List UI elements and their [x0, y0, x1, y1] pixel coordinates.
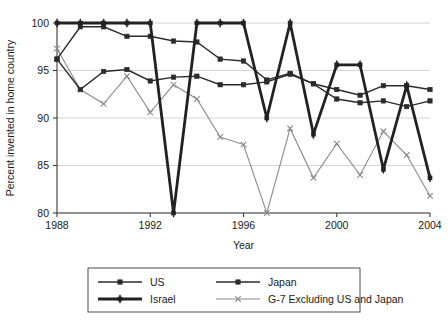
- data-point-marker: [125, 67, 129, 71]
- data-point-marker: [241, 59, 245, 63]
- y-tick-label: 85: [37, 159, 49, 171]
- legend-item-g-7-excluding-us-and-japan[interactable]: G-7 Excluding US and Japan: [216, 293, 404, 305]
- legend-label: Israel: [150, 293, 176, 305]
- data-point-marker: [236, 280, 240, 284]
- series-japan: [55, 57, 432, 109]
- chart-figure: 8085909510019881992199620002004YearPerce…: [0, 0, 448, 320]
- data-point-marker: [148, 79, 152, 83]
- data-point-marker: [381, 99, 385, 103]
- x-tick-label: 1992: [139, 219, 163, 231]
- data-point-marker: [55, 57, 59, 61]
- data-point-marker: [171, 75, 175, 79]
- y-tick-label: 80: [37, 207, 49, 219]
- legend-item-japan[interactable]: Japan: [216, 276, 297, 288]
- data-point-marker: [335, 87, 339, 91]
- y-tick-label: 100: [31, 17, 49, 29]
- x-tick-label: 2000: [325, 219, 349, 231]
- data-point-marker: [335, 97, 339, 101]
- data-point-marker: [358, 101, 362, 105]
- legend-border: [88, 268, 360, 312]
- x-tick-label: 2004: [418, 219, 442, 231]
- legend-label: Japan: [268, 276, 297, 288]
- line-chart: 8085909510019881992199620002004YearPerce…: [0, 0, 448, 320]
- y-axis-title: Percent invented in home country: [4, 39, 16, 196]
- data-point-marker: [428, 99, 432, 103]
- data-point-marker: [171, 39, 175, 43]
- data-point-marker: [428, 87, 432, 91]
- x-tick-label: 1988: [45, 219, 69, 231]
- data-point-marker: [404, 104, 408, 108]
- legend-item-us[interactable]: US: [98, 276, 165, 288]
- data-point-marker: [381, 84, 385, 88]
- legend-label: G-7 Excluding US and Japan: [268, 293, 404, 305]
- x-axis-title: Year: [233, 239, 255, 251]
- legend: USJapanIsraelG-7 Excluding US and Japan: [88, 268, 404, 312]
- data-point-marker: [218, 83, 222, 87]
- data-point-marker: [311, 82, 315, 86]
- data-point-marker: [125, 34, 129, 38]
- legend-item-israel[interactable]: Israel: [98, 293, 176, 305]
- data-point-marker: [241, 83, 245, 87]
- legend-label: US: [150, 276, 165, 288]
- data-point-marker: [218, 57, 222, 61]
- data-point-marker: [195, 74, 199, 78]
- data-point-marker: [265, 80, 269, 84]
- x-tick-label: 1996: [232, 219, 256, 231]
- y-tick-label: 95: [37, 64, 49, 76]
- data-point-marker: [358, 93, 362, 97]
- y-tick-label: 90: [37, 112, 49, 124]
- gridlines: [57, 23, 430, 213]
- data-point-marker: [118, 280, 122, 284]
- data-point-marker: [288, 72, 292, 76]
- data-point-marker: [78, 87, 82, 91]
- data-point-marker: [101, 69, 105, 73]
